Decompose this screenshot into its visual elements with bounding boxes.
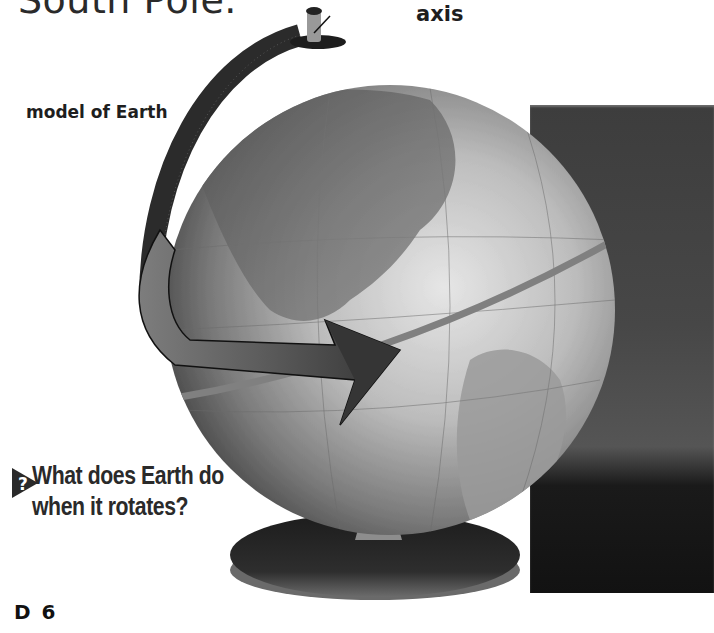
- globe-illustration: [0, 0, 714, 633]
- axis-pin: [290, 7, 346, 49]
- page-number: D 6: [14, 600, 57, 624]
- axis-label: axis: [416, 2, 463, 26]
- svg-text:?: ?: [18, 474, 28, 494]
- model-of-earth-label: model of Earth: [26, 102, 168, 122]
- question-line-2: when it rotates?: [32, 491, 224, 522]
- question-prompt: What does Earth do when it rotates?: [32, 460, 224, 522]
- question-line-1: What does Earth do: [32, 460, 224, 491]
